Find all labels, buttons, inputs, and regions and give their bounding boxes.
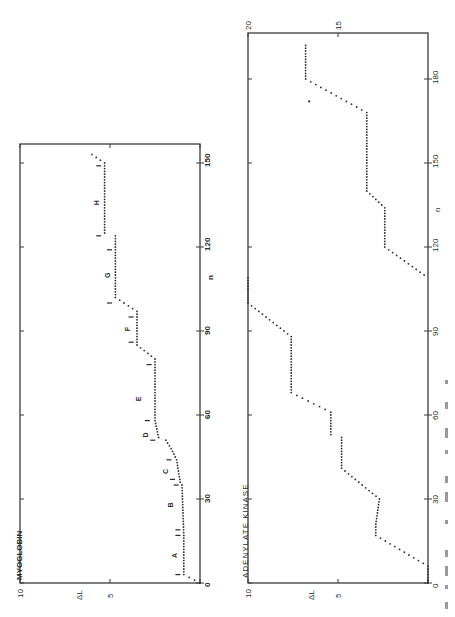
data-point <box>182 509 184 511</box>
data-point <box>156 428 158 430</box>
data-point <box>115 280 117 282</box>
data-point <box>104 165 106 167</box>
data-point <box>183 568 185 570</box>
data-point <box>177 467 179 469</box>
data-point <box>104 210 106 212</box>
data-point <box>154 392 156 394</box>
data-point <box>384 210 386 212</box>
caption-fragment <box>445 492 448 502</box>
data-point <box>290 378 292 380</box>
data-point <box>176 462 178 464</box>
data-point <box>183 537 185 539</box>
data-point <box>419 271 421 273</box>
data-point <box>422 563 424 565</box>
data-point <box>366 140 368 142</box>
x-tick-label: 90 <box>431 327 440 336</box>
data-point <box>381 204 383 206</box>
data-point <box>368 490 370 492</box>
data-point <box>394 546 396 548</box>
data-point <box>427 574 429 576</box>
data-point <box>247 294 249 296</box>
data-point <box>290 364 292 366</box>
y-tick-label-upper: 20 <box>244 21 253 30</box>
x-tick-label: 30 <box>431 495 440 504</box>
data-point <box>375 495 377 497</box>
data-point <box>170 448 172 450</box>
helix-label: B <box>167 503 174 508</box>
x-tick-label: 180 <box>431 70 440 84</box>
myoglobin-segment-labels: ABCDEFGH <box>93 200 177 558</box>
data-point <box>366 190 368 192</box>
data-point <box>384 540 386 542</box>
data-point <box>183 546 185 548</box>
data-point <box>136 341 138 343</box>
data-point <box>290 355 292 357</box>
data-point <box>154 364 156 366</box>
data-point <box>290 347 292 349</box>
data-point <box>182 495 184 497</box>
data-point <box>384 227 386 229</box>
data-point <box>375 535 377 537</box>
data-point <box>115 269 117 271</box>
data-point <box>136 344 138 346</box>
data-point <box>313 403 315 405</box>
data-point <box>413 557 415 559</box>
x-tick-label: 0 <box>431 583 440 588</box>
data-point <box>154 406 156 408</box>
x-tick-label: 60 <box>431 411 440 420</box>
data-point <box>154 358 156 360</box>
data-point <box>290 369 292 371</box>
data-point <box>341 459 343 461</box>
data-point <box>330 425 332 427</box>
data-point <box>136 319 138 321</box>
data-point <box>154 411 156 413</box>
data-point <box>104 193 106 195</box>
data-point <box>136 333 138 335</box>
data-point <box>384 241 386 243</box>
data-point <box>104 179 106 181</box>
data-point <box>384 207 386 209</box>
data-point <box>341 453 343 455</box>
myoglobin-frame <box>20 144 200 583</box>
data-point <box>375 526 377 528</box>
data-point <box>305 56 307 58</box>
data-point <box>366 159 368 161</box>
data-point <box>183 549 185 551</box>
rotated-charts: 0306090120150510 ABCDEFGH MYOGLOBIN ΔL n… <box>0 0 455 617</box>
data-point <box>399 549 401 551</box>
data-point <box>375 532 377 534</box>
y-tick-label: 10 <box>244 589 253 598</box>
data-point <box>182 501 184 503</box>
data-point <box>400 257 402 259</box>
data-point <box>305 70 307 72</box>
data-point <box>104 227 106 229</box>
data-point <box>154 372 156 374</box>
data-point <box>115 285 117 287</box>
caption-fragment <box>445 476 448 483</box>
data-point <box>183 565 185 567</box>
data-point <box>115 235 117 237</box>
data-point <box>366 148 368 150</box>
data-point <box>136 313 138 315</box>
data-point <box>307 400 309 402</box>
ak-ticks: 03060901201501805101520 <box>244 21 440 598</box>
data-point <box>384 221 386 223</box>
caption-fragment <box>445 602 448 609</box>
data-point <box>330 434 332 436</box>
data-point <box>183 563 185 565</box>
data-point <box>378 501 380 503</box>
x-tick-label: 120 <box>431 238 440 252</box>
data-point <box>136 339 138 341</box>
data-point <box>276 325 278 327</box>
data-point <box>182 498 184 500</box>
data-point <box>375 523 377 525</box>
outlier-point <box>308 100 310 102</box>
data-point <box>247 280 249 282</box>
data-point <box>415 269 417 271</box>
myoglobin-ticks: 0306090120150510 <box>16 144 212 598</box>
data-point <box>290 336 292 338</box>
x-tick-label: 90 <box>203 326 212 335</box>
data-point <box>247 297 249 299</box>
data-point <box>104 162 106 164</box>
data-point <box>258 311 260 313</box>
